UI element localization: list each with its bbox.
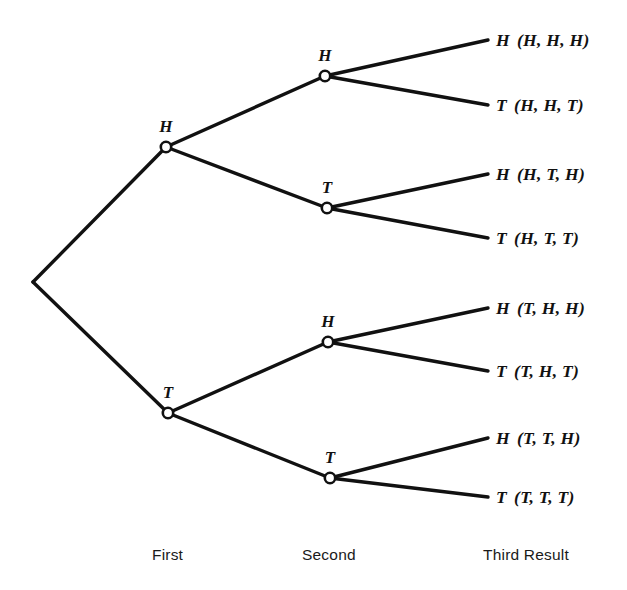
- leaf-tuple-hhh: (H, H, H): [517, 30, 590, 50]
- leaf-tuple-tth: (T, T, H): [517, 428, 581, 448]
- node-h1: [161, 142, 171, 152]
- branch-t1h2-to-thh: [328, 308, 488, 342]
- leaf-label-thh: H(T, H, H): [496, 298, 585, 319]
- leaf-outcome-hth: H: [496, 164, 510, 184]
- node-label-t1: T: [163, 383, 174, 403]
- leaf-tuple-thh: (T, H, H): [517, 298, 585, 318]
- node-h1t2: [322, 203, 332, 213]
- node-h1h2: [320, 71, 330, 81]
- probability-tree-figure: HTHTHT H(H, H, H)T(H, H, T)H(H, T, H)T(H…: [0, 0, 627, 590]
- branch-t1t2-to-tth: [330, 438, 488, 478]
- leaf-tuple-tht: (T, H, T): [514, 361, 579, 381]
- leaf-outcome-ttt: T: [496, 487, 507, 507]
- leaf-label-hht: T(H, H, T): [496, 95, 584, 116]
- leaf-label-hth: H(H, T, H): [496, 164, 585, 185]
- branch-h1t2-to-hth: [327, 174, 488, 208]
- leaf-outcome-htt: T: [496, 228, 507, 248]
- branch-root-to-t1: [33, 282, 168, 413]
- leaf-tuple-htt: (H, T, T): [514, 228, 579, 248]
- stage-label-first: First: [152, 546, 183, 564]
- leaf-outcome-tht: T: [496, 361, 507, 381]
- leaf-tuple-ttt: (T, T, T): [514, 487, 575, 507]
- leaf-outcome-hht: T: [496, 95, 507, 115]
- branch-h1h2-to-hhh: [325, 40, 488, 76]
- leaf-tuple-hht: (H, H, T): [514, 95, 584, 115]
- branch-t1t2-to-ttt: [330, 478, 488, 497]
- leaf-outcome-tth: H: [496, 428, 510, 448]
- branch-t1-to-t1h2: [168, 342, 328, 413]
- leaf-label-ttt: T(T, T, T): [496, 487, 575, 508]
- node-label-h1: H: [159, 117, 172, 137]
- leaf-label-tth: H(T, T, H): [496, 428, 581, 449]
- stage-label-second: Second: [302, 546, 356, 564]
- node-t1h2: [323, 337, 333, 347]
- stage-label-third: Third Result: [483, 546, 569, 564]
- leaf-outcome-hhh: H: [496, 30, 510, 50]
- branch-h1h2-to-hht: [325, 76, 488, 105]
- leaf-outcome-thh: H: [496, 298, 510, 318]
- tree-edges: [33, 40, 488, 497]
- branch-t1-to-t1t2: [168, 413, 330, 478]
- node-t1: [163, 408, 173, 418]
- node-t1t2: [325, 473, 335, 483]
- node-label-h1h2: H: [318, 46, 331, 66]
- leaf-label-htt: T(H, T, T): [496, 228, 579, 249]
- leaf-tuple-hth: (H, T, H): [517, 164, 585, 184]
- branch-h1-to-h1h2: [166, 76, 325, 147]
- node-label-t1h2: H: [321, 312, 334, 332]
- branch-root-to-h1: [33, 147, 166, 282]
- branch-t1h2-to-tht: [328, 342, 488, 371]
- leaf-label-hhh: H(H, H, H): [496, 30, 590, 51]
- branch-h1-to-h1t2: [166, 147, 327, 208]
- branch-h1t2-to-htt: [327, 208, 488, 238]
- node-label-h1t2: T: [322, 178, 333, 198]
- node-label-t1t2: T: [325, 448, 336, 468]
- leaf-label-tht: T(T, H, T): [496, 361, 579, 382]
